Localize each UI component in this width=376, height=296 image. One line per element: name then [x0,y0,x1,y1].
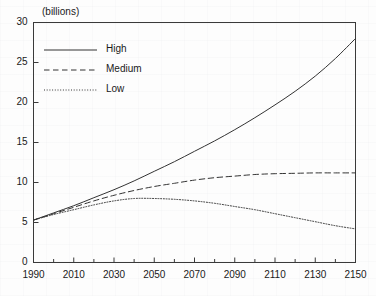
y-axis-ticks [34,23,39,263]
y-tick-label: 15 [6,136,28,147]
population-projection-line-chart [0,0,376,296]
series-line-high [34,39,356,221]
x-tick-label: 2050 [137,269,171,280]
legend-label-high: High [106,43,127,54]
legend-sample-lines [44,50,97,90]
y-tick-label: 5 [6,216,28,227]
legend-label-low: Low [106,83,124,94]
x-axis-ticks [34,258,356,263]
y-axis-unit-label: (billions) [42,6,79,17]
series-line-medium [34,173,356,220]
x-tick-label: 1990 [17,269,51,280]
y-tick-label: 30 [6,16,28,27]
x-tick-label: 2150 [339,269,373,280]
data-series-group [34,39,356,229]
y-tick-label: 0 [6,256,28,267]
y-tick-label: 20 [6,96,28,107]
x-tick-label: 2110 [258,269,292,280]
x-tick-label: 2030 [97,269,131,280]
x-tick-label: 2070 [178,269,212,280]
plot-frame [34,23,356,263]
x-tick-label: 2130 [298,269,332,280]
y-tick-label: 10 [6,176,28,187]
chart-page: (billions) 051015202530 1990201020302050… [0,0,376,296]
x-tick-label: 2090 [218,269,252,280]
y-tick-label: 25 [6,56,28,67]
legend-label-medium: Medium [106,63,142,74]
x-tick-label: 2010 [57,269,91,280]
